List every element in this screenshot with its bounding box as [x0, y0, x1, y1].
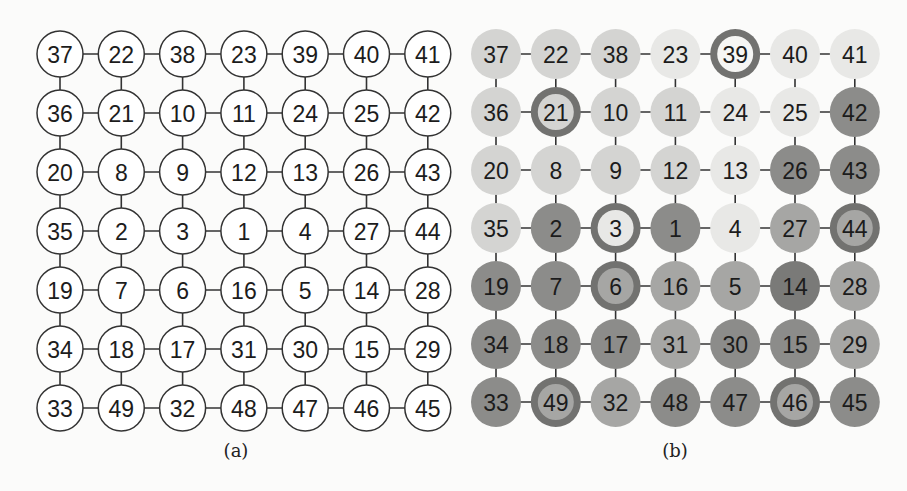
- node-label: 16: [663, 274, 689, 300]
- grid-node: 12: [650, 145, 700, 195]
- grid-node: 12: [221, 149, 267, 195]
- node-label: 21: [109, 101, 135, 127]
- grid-node: 13: [282, 149, 328, 195]
- grid-node: 21: [98, 90, 144, 136]
- grid-node: 48: [221, 385, 267, 431]
- grid-node: 20: [37, 149, 83, 195]
- node-label: 2: [115, 219, 128, 245]
- grid-node: 47: [282, 385, 328, 431]
- grid-node: 6: [160, 267, 206, 313]
- node-label: 36: [483, 100, 509, 126]
- grid-node: 33: [37, 385, 83, 431]
- grid-node: 38: [160, 31, 206, 77]
- grid-node: 18: [531, 319, 581, 369]
- node-label: 35: [47, 219, 73, 245]
- node-label: 12: [663, 158, 689, 184]
- grid-node: 13: [710, 145, 760, 195]
- grid-node: 25: [344, 90, 390, 136]
- grid-node: 23: [650, 29, 700, 79]
- grid-node: 2: [98, 208, 144, 254]
- grid-node: 43: [830, 145, 880, 195]
- grid-node: 3: [591, 203, 641, 253]
- node-label: 41: [842, 42, 868, 68]
- node-label: 33: [483, 390, 509, 416]
- node-label: 46: [782, 390, 808, 416]
- node-label: 49: [109, 396, 135, 422]
- node-label: 5: [299, 278, 312, 304]
- grid-node: 46: [770, 377, 820, 427]
- node-label: 30: [292, 337, 318, 363]
- node-label: 42: [415, 101, 441, 127]
- grid-node: 19: [471, 261, 521, 311]
- node-label: 19: [483, 274, 509, 300]
- grid-node: 5: [282, 267, 328, 313]
- node-label: 40: [782, 42, 808, 68]
- grid-node: 42: [405, 90, 451, 136]
- grid-node: 17: [160, 326, 206, 372]
- node-label: 28: [842, 274, 868, 300]
- node-label: 47: [722, 390, 748, 416]
- grid-node: 21: [531, 87, 581, 137]
- grid-node: 40: [770, 29, 820, 79]
- node-label: 44: [415, 219, 441, 245]
- grid-node: 32: [591, 377, 641, 427]
- node-label: 22: [109, 42, 135, 68]
- grid-node: 34: [471, 319, 521, 369]
- grid-node: 6: [591, 261, 641, 311]
- grid-node: 18: [98, 326, 144, 372]
- grid-node: 39: [710, 29, 760, 79]
- node-label: 12: [231, 160, 257, 186]
- node-label: 20: [47, 160, 73, 186]
- grid-node: 3: [160, 208, 206, 254]
- grid-node: 4: [282, 208, 328, 254]
- grid-node: 16: [650, 261, 700, 311]
- node-label: 17: [603, 332, 629, 358]
- node-label: 9: [176, 160, 189, 186]
- node-label: 46: [354, 396, 380, 422]
- node-label: 23: [663, 42, 689, 68]
- grid-node: 49: [98, 385, 144, 431]
- node-label: 30: [722, 332, 748, 358]
- node-label: 7: [115, 278, 128, 304]
- grid-node: 7: [98, 267, 144, 313]
- grid-node: 35: [37, 208, 83, 254]
- grid-node: 15: [770, 319, 820, 369]
- node-label: 7: [549, 274, 562, 300]
- node-label: 8: [549, 158, 562, 184]
- node-label: 18: [109, 337, 135, 363]
- grid-node: 1: [221, 208, 267, 254]
- grid-node: 16: [221, 267, 267, 313]
- node-label: 1: [669, 216, 682, 242]
- node-label: 36: [47, 101, 73, 127]
- node-label: 32: [170, 396, 196, 422]
- node-label: 14: [782, 274, 808, 300]
- node-label: 20: [483, 158, 509, 184]
- grid-node: 27: [770, 203, 820, 253]
- grid-node: 26: [770, 145, 820, 195]
- node-label: 4: [299, 219, 312, 245]
- node-label: 45: [842, 390, 868, 416]
- node-label: 40: [354, 42, 380, 68]
- grid-node: 15: [344, 326, 390, 372]
- node-label: 37: [47, 42, 73, 68]
- node-label: 10: [170, 101, 196, 127]
- grid-node: 5: [710, 261, 760, 311]
- grid-node: 19: [37, 267, 83, 313]
- grid-node: 35: [471, 203, 521, 253]
- grid-node: 49: [531, 377, 581, 427]
- grid-node: 17: [591, 319, 641, 369]
- grid-node: 30: [282, 326, 328, 372]
- node-label: 44: [842, 216, 868, 242]
- grid-node: 31: [221, 326, 267, 372]
- grid-node: 24: [282, 90, 328, 136]
- node-label: 31: [231, 337, 257, 363]
- grid-node: 37: [471, 29, 521, 79]
- grid-node: 27: [344, 208, 390, 254]
- node-label: 45: [415, 396, 441, 422]
- node-label: 21: [543, 100, 569, 126]
- node-label: 27: [354, 219, 380, 245]
- node-label: 48: [231, 396, 257, 422]
- grid-node: 2: [531, 203, 581, 253]
- node-label: 15: [354, 337, 380, 363]
- node-label: 11: [663, 100, 687, 126]
